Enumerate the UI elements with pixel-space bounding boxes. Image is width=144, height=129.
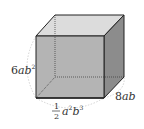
front-face xyxy=(36,36,104,98)
svg-text:1: 1 xyxy=(54,102,59,111)
svg-text:a2b3: a2b3 xyxy=(62,104,83,118)
width-label: 1 2 a2b3 xyxy=(52,102,83,121)
svg-text:2: 2 xyxy=(54,112,59,121)
depth-label: 8ab xyxy=(115,90,136,103)
prism-diagram: 6ab2 8ab 1 2 a2b3 xyxy=(0,0,144,129)
height-label: 6ab2 xyxy=(11,63,36,77)
